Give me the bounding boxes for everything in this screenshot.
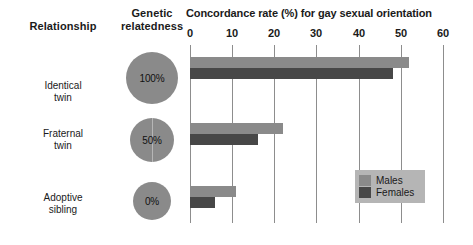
column-header-genetic-line1: Genetic [112, 7, 192, 20]
legend-swatch-males-icon [359, 175, 371, 186]
gridline-60 [443, 45, 444, 223]
row-label-identical-twin: Identical twin [8, 80, 118, 104]
legend-item-females: Females [359, 187, 420, 198]
relatedness-circle-fraternal-twin: 50% [112, 118, 192, 162]
concordance-rate-figure: Relationship Genetic relatedness Concord… [0, 0, 473, 245]
row-label-line1: Identical [8, 80, 118, 92]
column-header-genetic-line2: relatedness [112, 20, 192, 33]
legend: Males Females [355, 170, 425, 203]
bar-fraternal-twin-males [190, 123, 283, 134]
row-label-line1: Fraternal [8, 128, 118, 140]
pie-100: 100% [126, 52, 178, 104]
column-header-relationship: Relationship [8, 20, 118, 33]
legend-swatch-females-icon [359, 187, 371, 198]
x-tick-label-60: 60 [437, 27, 449, 39]
chart-title: Concordance rate (%) for gay sexual orie… [186, 7, 473, 19]
plot-area: 0 10 20 30 40 50 60 [190, 45, 473, 223]
row-label-line1: Adoptive [8, 192, 118, 204]
row-label-line2: twin [8, 92, 118, 104]
bar-adoptive-sibling-females [190, 197, 215, 208]
legend-item-males: Males [359, 175, 420, 186]
bar-adoptive-sibling-males [190, 186, 236, 197]
x-tick-label-30: 30 [310, 27, 322, 39]
pie-label: 0% [145, 196, 159, 207]
row-label-fraternal-twin: Fraternal twin [8, 128, 118, 152]
pie-0: 0% [133, 182, 171, 220]
bar-identical-twin-males [190, 57, 409, 68]
legend-label-males: Males [376, 175, 403, 186]
pie-label: 100% [140, 73, 165, 84]
column-header-genetic-relatedness: Genetic relatedness [112, 7, 192, 33]
relatedness-circle-identical-twin: 100% [112, 52, 192, 104]
x-tick-label-0: 0 [187, 27, 193, 39]
x-tick-label-20: 20 [268, 27, 280, 39]
row-label-line2: sibling [8, 204, 118, 216]
x-tick-label-50: 50 [395, 27, 407, 39]
pie-label: 50% [142, 135, 161, 146]
row-label-line2: twin [8, 140, 118, 152]
pie-50: 50% [130, 118, 174, 162]
legend-label-females: Females [376, 187, 414, 198]
relatedness-circle-adoptive-sibling: 0% [112, 182, 192, 220]
row-label-adoptive-sibling: Adoptive sibling [8, 192, 118, 216]
x-tick-label-40: 40 [353, 27, 365, 39]
bar-identical-twin-females [190, 68, 393, 79]
x-tick-label-10: 10 [226, 27, 238, 39]
bar-fraternal-twin-females [190, 134, 258, 145]
